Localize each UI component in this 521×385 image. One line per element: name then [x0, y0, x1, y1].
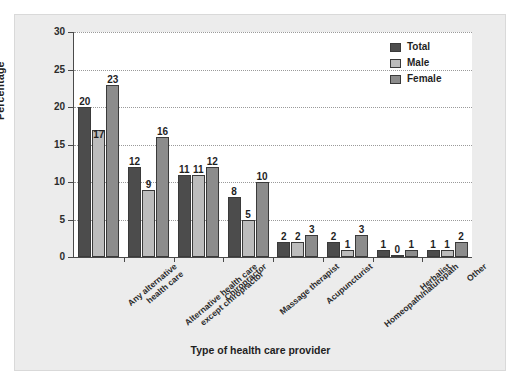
legend-swatch-icon — [390, 75, 401, 84]
bar-total: 1 — [427, 250, 440, 258]
bar-value-label: 2 — [331, 232, 337, 242]
bar-value-label: 1 — [444, 240, 450, 250]
bar-value-label: 3 — [309, 225, 315, 235]
x-axis-separator — [124, 257, 125, 262]
bar-value-label: 23 — [107, 75, 118, 85]
bar-value-label: 20 — [79, 97, 90, 107]
bar-value-label: 16 — [157, 127, 168, 137]
bar-value-label: 8 — [231, 187, 237, 197]
bar-male: 11 — [192, 175, 205, 258]
y-tick-mark — [68, 220, 73, 221]
bar-value-label: 0 — [395, 245, 401, 255]
bar-value-label: 10 — [257, 172, 268, 182]
legend-item: Male — [390, 56, 441, 70]
bar-value-label: 5 — [245, 210, 251, 220]
bar-value-label: 1 — [381, 240, 387, 250]
y-tick-mark — [68, 182, 73, 183]
bar-total: 8 — [228, 197, 241, 257]
y-tick-mark — [68, 107, 73, 108]
bar-male: 17 — [92, 130, 105, 258]
y-tick-mark — [68, 257, 73, 258]
bar-value-label: 9 — [146, 180, 152, 190]
bar-group: 201723 — [78, 32, 119, 257]
x-axis-separator — [422, 257, 423, 262]
y-tick-label: 5 — [35, 215, 65, 225]
bar-group: 8510 — [228, 32, 269, 257]
bar-male: 9 — [142, 190, 155, 258]
x-axis-separator — [273, 257, 274, 262]
y-tick-label: 30 — [35, 27, 65, 37]
bar-value-label: 11 — [179, 165, 190, 175]
bar-value-label: 2 — [458, 232, 464, 242]
bar-male: 5 — [242, 220, 255, 258]
y-tick-mark — [68, 32, 73, 33]
legend-item: Female — [390, 72, 441, 86]
bar-total: 2 — [277, 242, 290, 257]
legend-swatch-icon — [390, 59, 401, 68]
bar-total: 12 — [128, 167, 141, 257]
bar-group: 223 — [277, 32, 318, 257]
bar-value-label: 1 — [430, 240, 436, 250]
x-axis-separator — [323, 257, 324, 262]
y-tick-label: 15 — [35, 140, 65, 150]
x-axis-title: Type of health care provider — [0, 344, 521, 356]
bar-male: 1 — [441, 250, 454, 258]
y-tick-label: 20 — [35, 102, 65, 112]
y-tick-label: 25 — [35, 65, 65, 75]
bar-female: 12 — [206, 167, 219, 257]
bar-female: 3 — [355, 235, 368, 258]
bar-male: 1 — [341, 250, 354, 258]
legend-item: Total — [390, 40, 441, 54]
x-axis-separator — [223, 257, 224, 262]
bar-value-label: 11 — [193, 165, 204, 175]
y-tick-label: 0 — [35, 252, 65, 262]
y-tick-mark — [68, 145, 73, 146]
bar-total: 11 — [178, 175, 191, 258]
chart-figure: Percentage 20172312916111112851022321310… — [0, 0, 521, 385]
legend-label: Total — [407, 42, 430, 52]
bar-male: 0 — [391, 255, 404, 257]
x-axis-separator — [373, 257, 374, 262]
bar-female: 3 — [305, 235, 318, 258]
y-tick-mark — [68, 70, 73, 71]
legend-swatch-icon — [390, 43, 401, 52]
bar-value-label: 17 — [93, 130, 104, 140]
bar-female: 1 — [405, 250, 418, 258]
bar-value-label: 2 — [281, 232, 287, 242]
x-axis-separator — [174, 257, 175, 262]
bar-value-label: 1 — [345, 240, 351, 250]
bar-value-label: 3 — [359, 225, 365, 235]
bar-female: 16 — [156, 137, 169, 257]
bar-female: 2 — [455, 242, 468, 257]
bar-female: 10 — [256, 182, 269, 257]
bar-group: 111112 — [178, 32, 219, 257]
y-axis-title: Percentage — [0, 61, 6, 120]
bar-value-label: 2 — [295, 232, 301, 242]
legend-label: Female — [407, 74, 441, 84]
bar-male: 2 — [291, 242, 304, 257]
chart-legend: TotalMaleFemale — [390, 40, 441, 88]
bar-group: 12916 — [128, 32, 169, 257]
bar-total: 2 — [327, 242, 340, 257]
bar-value-label: 12 — [129, 157, 140, 167]
bar-total: 1 — [377, 250, 390, 258]
y-tick-label: 10 — [35, 177, 65, 187]
bar-value-label: 1 — [409, 240, 415, 250]
bar-female: 23 — [106, 85, 119, 258]
bar-group: 213 — [327, 32, 368, 257]
bar-total: 20 — [78, 107, 91, 257]
legend-label: Male — [407, 58, 429, 68]
bar-value-label: 12 — [207, 157, 218, 167]
